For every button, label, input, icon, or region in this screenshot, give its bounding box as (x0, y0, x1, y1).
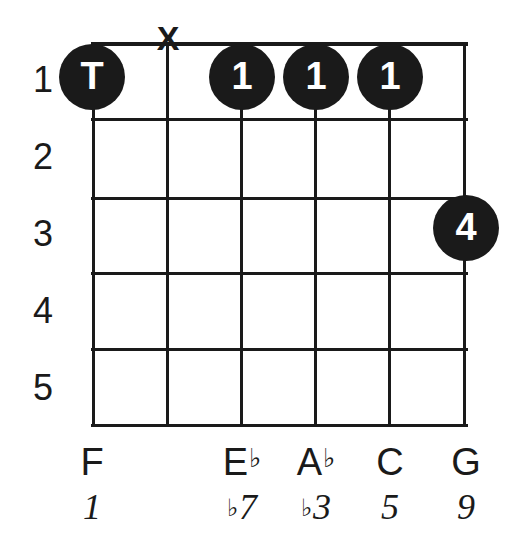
interval-label-string-6: 9 (411, 489, 521, 525)
thumb-dot-label: T (80, 57, 103, 95)
fret-line-1 (91, 118, 468, 121)
finger-dot-string-5-label: 1 (379, 57, 400, 95)
thumb-dot[interactable]: T (59, 44, 125, 110)
fret-line-3 (91, 272, 468, 275)
interval-number: 1 (83, 487, 101, 527)
note-letter: F (80, 441, 103, 483)
finger-dot-string-4-label: 1 (305, 57, 326, 95)
interval-number: 7 (239, 487, 257, 527)
fret-number-5: 5 (13, 370, 53, 406)
interval-number: 5 (381, 487, 399, 527)
finger-dot-string-5[interactable]: 1 (357, 44, 423, 110)
flat-icon: ♭ (227, 495, 238, 521)
flat-icon: ♭ (323, 443, 335, 473)
fret-line-2 (91, 197, 468, 200)
note-letter: C (376, 441, 403, 483)
finger-dot-string-6-label: 4 (455, 208, 476, 246)
interval-number: 3 (313, 487, 331, 527)
interval-number: 9 (457, 487, 475, 527)
finger-dot-string-4[interactable]: 1 (283, 44, 349, 110)
flat-icon: ♭ (249, 443, 261, 473)
note-label-string-6: G (411, 443, 521, 481)
muted-string-x-label: X (157, 19, 180, 57)
interval-label-string-1: 1 (37, 489, 147, 525)
flat-icon: ♭ (301, 495, 312, 521)
fret-number-1: 1 (13, 62, 53, 98)
note-label-string-1: F (37, 443, 147, 481)
muted-string-x-icon: X (151, 21, 185, 55)
note-letter: E (223, 441, 248, 483)
chord-diagram-canvas: 1 2 3 4 5 X T 1 1 1 4 FE♭A♭CG 1 (0, 0, 527, 549)
fret-number-4: 4 (13, 293, 53, 329)
fret-line-4 (91, 348, 468, 351)
string-line-2 (166, 42, 169, 427)
fret-number-2: 2 (13, 139, 53, 175)
finger-dot-string-3[interactable]: 1 (209, 44, 275, 110)
finger-dot-string-3-label: 1 (231, 57, 252, 95)
note-letter: G (451, 441, 481, 483)
fret-line-5 (91, 424, 468, 427)
note-letter: A (297, 441, 322, 483)
nut-line (91, 42, 468, 46)
finger-dot-string-6[interactable]: 4 (433, 195, 499, 261)
fret-number-3: 3 (13, 216, 53, 252)
